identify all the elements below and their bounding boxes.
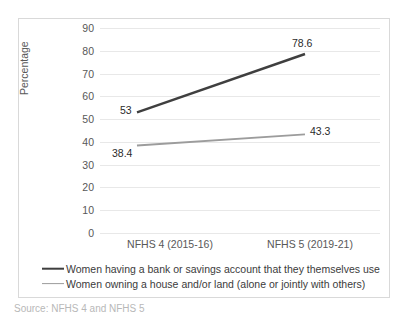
data-label-series1-point1: 53 [120, 105, 132, 116]
legend-label-series-1: Women having a bank or savings account t… [66, 263, 380, 275]
y-axis-title: Percentage [18, 41, 30, 95]
gridline-20 [100, 187, 380, 188]
gridline-90 [100, 28, 380, 29]
y-tick-70: 70 [54, 69, 94, 79]
legend-item-series-2[interactable]: Women owning a house and/or land (alone … [42, 276, 372, 291]
gridline-70 [100, 74, 380, 75]
y-tick-40: 40 [54, 137, 94, 147]
legend-item-series-1[interactable]: Women having a bank or savings account t… [42, 261, 372, 276]
plot-area [100, 28, 380, 233]
y-tick-10: 10 [54, 205, 94, 215]
bottom-caption: Source: NFHS 4 and NFHS 5 [14, 303, 244, 314]
gridline-30 [100, 165, 380, 166]
data-label-series2-point2: 43.3 [310, 126, 330, 137]
data-label-series2-point1: 38.4 [112, 148, 132, 159]
y-tick-20: 20 [54, 182, 94, 192]
gridline-60 [100, 96, 380, 97]
y-tick-50: 50 [54, 114, 94, 124]
legend-line-swatch-icon [42, 279, 64, 289]
x-tick-nfhs4: NFHS 4 (2015-16) [127, 238, 213, 250]
y-tick-0: 0 [54, 228, 94, 238]
legend-label-series-2: Women owning a house and/or land (alone … [66, 278, 365, 290]
legend-line-swatch-icon [42, 264, 64, 274]
y-tick-30: 30 [54, 160, 94, 170]
y-tick-80: 80 [54, 46, 94, 56]
data-label-series1-point2: 78.6 [292, 38, 312, 49]
gridline-0 [100, 233, 380, 234]
chart-legend: Women having a bank or savings account t… [42, 261, 372, 291]
gridline-40 [100, 142, 380, 143]
gridline-10 [100, 210, 380, 211]
y-tick-60: 60 [54, 91, 94, 101]
gridline-50 [100, 119, 380, 120]
gridline-80 [100, 51, 380, 52]
y-tick-90: 90 [54, 23, 94, 33]
bottom-caption-text: Source: NFHS 4 and NFHS 5 [14, 303, 244, 314]
x-axis-tick-labels: NFHS 4 (2015-16) NFHS 5 (2019-21) [100, 238, 380, 254]
y-axis-tick-labels: 90 80 70 60 50 40 30 20 10 0 [48, 28, 94, 233]
x-tick-nfhs5: NFHS 5 (2019-21) [267, 238, 353, 250]
